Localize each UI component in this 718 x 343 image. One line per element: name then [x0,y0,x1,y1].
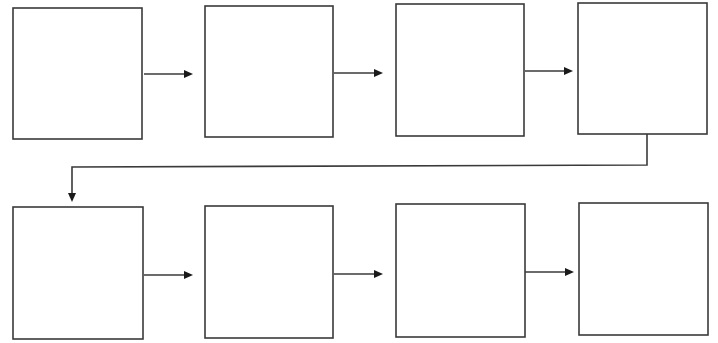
arrowhead-icon [565,268,574,276]
box-rect [205,6,333,137]
arrow-box-5-to-box-6 [144,271,193,279]
box-rect [13,8,142,139]
arrowhead-icon [374,270,383,278]
arrow-line [72,134,647,193]
arrowhead-icon [564,67,573,75]
arrowhead-icon [184,271,193,279]
box-rect [578,3,707,134]
boxes [13,3,708,339]
box-rect [396,204,525,337]
arrowhead-icon [68,193,76,202]
box-5 [13,207,143,339]
box-rect [205,206,333,338]
box-4 [578,3,707,134]
box-7 [396,204,525,337]
box-rect [396,4,524,136]
arrowhead-icon [374,69,383,77]
connectors [68,67,647,279]
flowchart-diagram [0,0,718,343]
arrow-box-3-to-box-4 [525,67,573,75]
box-6 [205,206,333,338]
box-8 [579,203,708,335]
arrow-box-2-to-box-3 [334,69,383,77]
arrowhead-icon [184,70,193,78]
box-rect [13,207,143,339]
box-rect [579,203,708,335]
arrow-box-7-to-box-8 [525,268,574,276]
box-3 [396,4,524,136]
arrow-box-4-to-box-5 [68,134,647,202]
arrow-box-1-to-box-2 [144,70,193,78]
arrow-box-6-to-box-7 [334,270,383,278]
box-2 [205,6,333,137]
box-1 [13,8,142,139]
